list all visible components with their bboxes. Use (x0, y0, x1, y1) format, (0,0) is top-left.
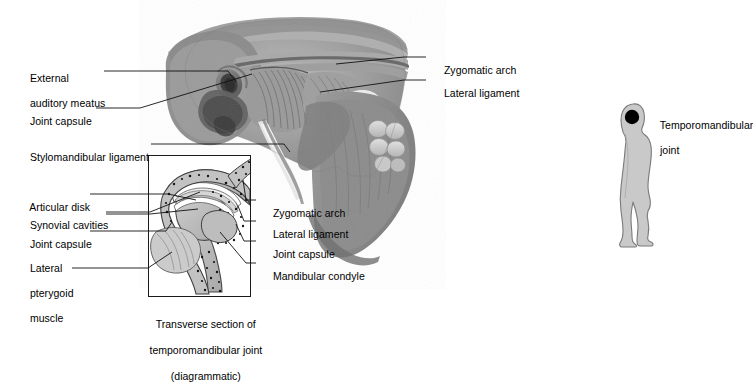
label-lateral-pterygoid-line1: Lateral (30, 262, 62, 274)
label-tmj-line1: Temporomandibular (660, 119, 753, 131)
molar-teeth (369, 121, 406, 173)
label-lateral-ligament-main-text: Lateral ligament (444, 87, 520, 99)
label-mandibular-condyle: Mandibular condyle (261, 257, 365, 295)
label-lateral-ligament-main: Lateral ligament (432, 74, 519, 112)
inset-caption-line3: (diagrammatic) (171, 370, 241, 382)
label-lateral-pterygoid-muscle: Lateral pterygoid muscle (18, 249, 88, 337)
label-joint-capsule-inset-text: Joint capsule (30, 238, 92, 250)
label-lateral-pterygoid-line3: muscle (30, 312, 64, 324)
lateral-ligament-fibers (247, 67, 323, 132)
label-stylomandibular-ligament: Stylomandibular ligament (18, 138, 149, 176)
label-mandibular-condyle-text: Mandibular condyle (273, 270, 365, 282)
label-external-auditory-meatus-line1: External (30, 72, 69, 84)
tmj-marker-dot (625, 110, 639, 124)
label-joint-capsule-main: Joint capsule (18, 102, 92, 140)
inset-section-box (148, 155, 251, 297)
label-joint-capsule-main-text: Joint capsule (30, 115, 92, 127)
label-temporomandibular-joint: Temporomandibular joint (648, 106, 740, 169)
label-tmj-line2: joint (660, 144, 680, 156)
leader-zygomatic-arch-main (336, 57, 426, 64)
label-stylomandibular-ligament-text: Stylomandibular ligament (30, 151, 149, 163)
inset-caption-line1: Transverse section of (156, 318, 256, 330)
inset-caption-line2: temporomandibular joint (150, 344, 263, 356)
leader-stylomandibular-ligament (151, 144, 290, 152)
label-lateral-pterygoid-line2: pterygoid (30, 287, 74, 299)
inset-caption: Transverse section of temporomandibular … (125, 305, 275, 386)
leader-lateral-ligament-main (320, 80, 426, 92)
